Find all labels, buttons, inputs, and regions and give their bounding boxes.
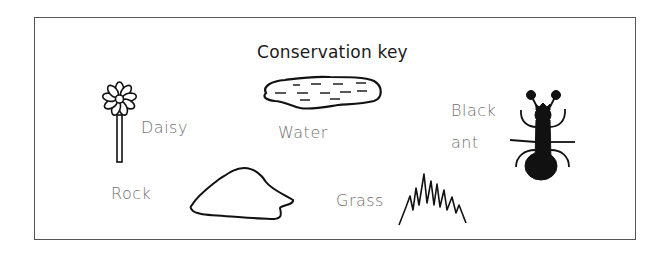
black-ant-label-line2: ant [451, 133, 479, 152]
black-ant-label-line1: Black [451, 101, 496, 120]
rock-label: Rock [111, 184, 151, 203]
water-icon [264, 77, 380, 109]
ant-icon [510, 91, 575, 181]
key-illustrations [0, 0, 665, 255]
daisy-label: Daisy [141, 118, 188, 137]
daisy-icon [102, 82, 137, 162]
water-label: Water [278, 123, 328, 142]
grass-icon [399, 174, 466, 225]
rock-icon [191, 168, 293, 219]
grass-label: Grass [336, 191, 384, 210]
